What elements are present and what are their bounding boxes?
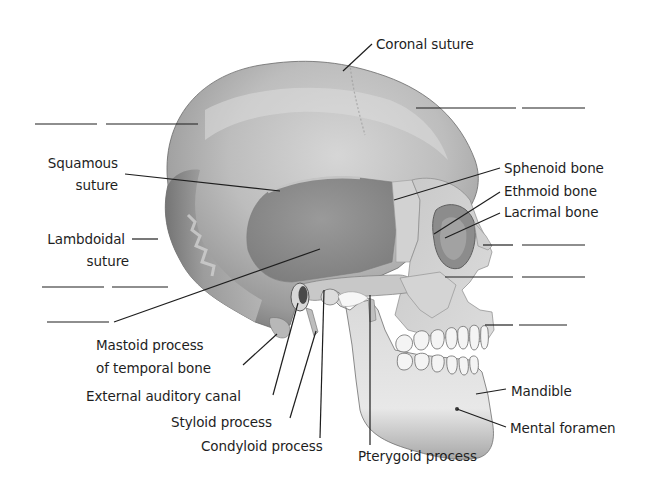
label-lambdoidal-suture-line1: Lambdoidal: [10, 228, 125, 250]
label-squamous-suture-line2: suture: [20, 174, 118, 196]
label-mandible: Mandible: [511, 380, 572, 402]
blank-maxilla: [519, 315, 567, 327]
label-mental-foramen: Mental foramen: [510, 417, 616, 439]
label-mastoid-process-line2: of temporal bone: [96, 357, 211, 379]
blank-zygomatic: [522, 267, 585, 279]
external-auditory-canal-shape: [291, 283, 309, 311]
label-condyloid-process: Condyloid process: [201, 435, 323, 457]
label-pterygoid-process: Pterygoid process: [358, 445, 477, 467]
temporal-bone: [247, 177, 396, 282]
label-lacrimal-bone: Lacrimal bone: [504, 201, 598, 223]
label-coronal-suture: Coronal suture: [376, 33, 474, 55]
label-squamous-suture-line1: Squamous: [20, 152, 118, 174]
teeth: [396, 325, 489, 375]
blank-parietal: [35, 114, 98, 126]
skull-diagram: Coronal suture Squamous suture Sphenoid …: [0, 0, 655, 488]
label-external-auditory-canal: External auditory canal: [86, 385, 241, 407]
label-mastoid-process-line1: Mastoid process: [96, 334, 204, 356]
blank-frontal: [522, 98, 585, 110]
label-lambdoidal-suture-line2: suture: [10, 250, 129, 272]
label-ethmoid-bone: Ethmoid bone: [504, 180, 597, 202]
blank-occipital: [42, 277, 105, 289]
blank-nasal: [522, 235, 585, 247]
label-sphenoid-bone: Sphenoid bone: [504, 157, 604, 179]
blank-temporal: [47, 312, 110, 324]
label-styloid-process: Styloid process: [171, 411, 272, 433]
